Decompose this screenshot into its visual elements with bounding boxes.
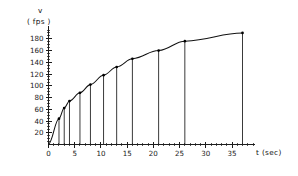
velocity-time-chart: 05101520253035 20406080100120140160180 v… bbox=[0, 0, 298, 176]
y-axis-title-line1: v bbox=[38, 6, 43, 15]
x-axis-title: t (sec) bbox=[256, 148, 282, 157]
y-axis-title-line2: ( fps ) bbox=[27, 17, 51, 26]
axis-titles-layer: v ( fps ) t (sec) bbox=[0, 0, 298, 176]
